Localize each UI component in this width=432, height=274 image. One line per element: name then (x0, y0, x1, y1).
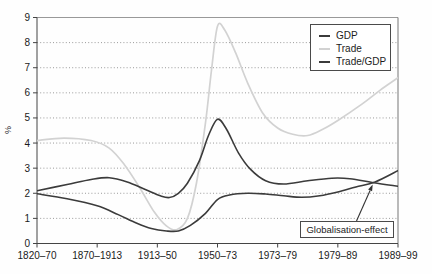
y-tick-label-5: 5 (24, 112, 30, 123)
annotation-arrow-line (357, 190, 371, 221)
legend-swatch-trade (319, 48, 330, 50)
y-tick-label-8: 8 (24, 37, 30, 48)
annotation-arrow-head (368, 185, 373, 192)
x-tick-label-2: 1913–50 (138, 250, 177, 261)
x-tick-label-6: 1989–99 (379, 250, 418, 261)
annotation-globalisation-effect: Globalisation-effect (300, 221, 394, 238)
growth-rates-line-chart-figure: 01234567891820–701870–19131913–501950–73… (0, 0, 432, 274)
legend-swatch-gdp (319, 35, 330, 37)
legend-label-gdp: GDP (336, 30, 358, 41)
legend-label-trade: Trade (336, 43, 362, 54)
x-tick-label-3: 1950–73 (198, 250, 237, 261)
y-tick-label-7: 7 (24, 62, 30, 73)
y-tick-label-0: 0 (24, 238, 30, 249)
x-tick-label-5: 1979–89 (318, 250, 357, 261)
legend-item-trade: Trade (319, 42, 390, 55)
legend-item-trade-gdp: Trade/GDP (319, 55, 390, 68)
y-tick-label-1: 1 (24, 213, 30, 224)
legend-item-gdp: GDP (319, 29, 390, 42)
series-line-gdp (37, 119, 398, 198)
y-tick-label-6: 6 (24, 87, 30, 98)
x-tick-label-1: 1870–1913 (72, 250, 122, 261)
x-tick-label-0: 1820–70 (18, 250, 57, 261)
y-tick-label-9: 9 (24, 12, 30, 23)
y-tick-label-2: 2 (24, 188, 30, 199)
legend: GDP Trade Trade/GDP (310, 24, 391, 71)
y-axis-label: % (3, 120, 23, 140)
legend-label-trade-gdp: Trade/GDP (336, 56, 386, 67)
y-tick-label-4: 4 (24, 138, 30, 149)
x-tick-label-4: 1973–79 (258, 250, 297, 261)
legend-swatch-trade-gdp (319, 61, 330, 63)
y-tick-label-3: 3 (24, 163, 30, 174)
